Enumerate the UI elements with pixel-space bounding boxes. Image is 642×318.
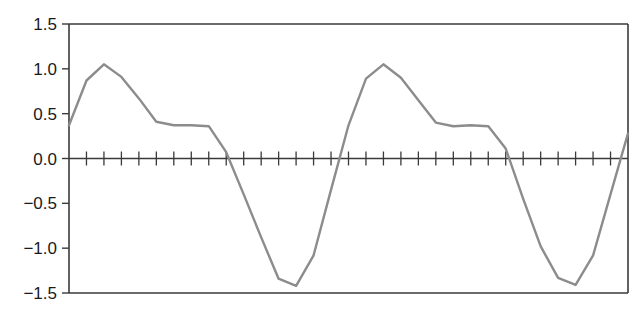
y-tick-label: −1.0 (23, 239, 57, 258)
y-tick-label: 1.0 (33, 60, 57, 79)
y-axis: 1.51.00.50.0−0.5−1.0−1.5 (23, 15, 69, 303)
line-chart: 1.51.00.50.0−0.5−1.0−1.5 (0, 0, 642, 318)
y-tick-label: −0.5 (23, 194, 57, 213)
series-line (69, 64, 628, 285)
zero-axis-line (69, 152, 628, 166)
y-tick-label: 1.5 (33, 15, 57, 34)
y-tick-label: 0.0 (33, 150, 57, 169)
y-tick-label: −1.5 (23, 284, 57, 303)
data-series (69, 64, 628, 285)
y-tick-label: 0.5 (33, 105, 57, 124)
